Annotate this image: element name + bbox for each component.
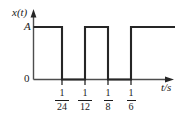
fraction-numerator: 1 <box>55 88 69 100</box>
origin-label: 0 <box>24 73 30 84</box>
fraction-denominator: 6 <box>127 100 136 113</box>
fraction: 1 24 <box>55 88 69 112</box>
waveform-trace <box>34 27 176 80</box>
x-tick-label-4: 1 6 <box>114 88 148 112</box>
fraction: 1 12 <box>78 88 92 112</box>
fraction-denominator: 8 <box>104 100 113 113</box>
amplitude-label: A <box>24 21 31 32</box>
fraction: 1 6 <box>127 88 136 112</box>
x-axis-label: t/s <box>161 82 171 93</box>
fraction-numerator: 1 <box>104 88 113 100</box>
waveform-figure: x(t) t/s A 0 1 24 1 12 1 8 1 6 <box>0 0 189 131</box>
fraction: 1 8 <box>104 88 113 112</box>
x-axis <box>34 76 175 82</box>
fraction-denominator: 24 <box>55 100 69 113</box>
fraction-numerator: 1 <box>78 88 92 100</box>
fraction-denominator: 12 <box>78 100 92 113</box>
fraction-numerator: 1 <box>127 88 136 100</box>
y-axis <box>31 9 37 80</box>
y-axis-label: x(t) <box>12 7 27 18</box>
